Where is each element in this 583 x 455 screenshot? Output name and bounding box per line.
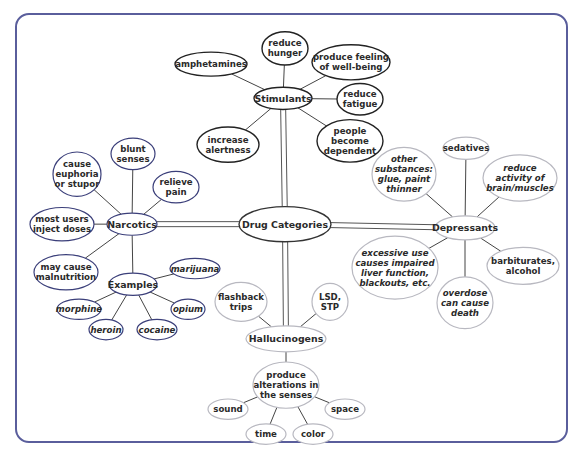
node-label: reduce [503, 163, 536, 173]
link-depressants-excessive-use [429, 238, 448, 249]
node-label: amphetamines [175, 59, 247, 69]
node-sound: sound [208, 399, 248, 419]
node-label: can cause [441, 298, 489, 308]
node-reduce-hunger: reducehunger [262, 32, 308, 65]
node-reduce-activity: reduceactivity ofbrain/muscles [483, 155, 557, 201]
node-label: produce feeling [313, 52, 389, 62]
node-flashback: flashbacktrips [215, 282, 267, 321]
node-center: Drug Categories [239, 207, 331, 242]
node-label: opium [173, 304, 203, 314]
node-label: Hallucinogens [249, 333, 324, 344]
double-link-center-stimulants [281, 109, 283, 206]
node-label: heroin [90, 325, 121, 335]
node-label: other [391, 154, 418, 164]
node-label: sedatives [443, 143, 490, 153]
node-label: space [331, 404, 359, 414]
node-label: Depressants [432, 222, 498, 233]
node-reduce-fatigue: reducefatigue [337, 84, 383, 115]
node-heroin: heroin [89, 319, 123, 339]
link-examples-heroin [112, 295, 127, 320]
node-label: trips [230, 302, 253, 312]
node-label: thinner [386, 184, 422, 194]
node-label: blunt [120, 144, 145, 154]
node-label: hunger [268, 48, 303, 58]
link-depressants-reduce-activity [477, 197, 499, 217]
link-depressants-other-substances [426, 194, 452, 217]
node-label: the senses [260, 390, 312, 400]
link-stimulants-dependent [298, 108, 327, 126]
node-label: excessive use [362, 248, 429, 258]
node-label: may cause [40, 262, 91, 272]
node-label: substances: [375, 164, 433, 174]
node-label: fatigue [343, 99, 378, 109]
node-label: inject doses [33, 224, 91, 234]
link-alterations-space [315, 397, 330, 403]
node-stimulants: Stimulants [254, 87, 312, 109]
node-space: space [325, 399, 365, 419]
node-barbiturates: barbiturates,alcohol [487, 247, 559, 284]
link-stimulants-increase-alertness [245, 108, 271, 130]
node-other-substances: othersubstances:glue, paintthinner [372, 147, 436, 201]
link-examples-cocaine [139, 295, 152, 320]
node-label: overdose [443, 288, 488, 298]
double-link-center-hallucinogens [288, 242, 289, 326]
node-label: pain [165, 187, 186, 197]
double-link-center-depressants [331, 228, 435, 230]
node-label: marijuana [171, 264, 220, 274]
node-label: barbiturates, [491, 256, 555, 266]
node-cocaine: cocaine [137, 319, 177, 339]
link-depressants-barbiturates [481, 238, 501, 251]
node-label: reduce [268, 38, 301, 48]
double-link-center-stimulants [286, 109, 288, 206]
node-label: of well-being [319, 62, 382, 72]
link-examples-opium [150, 292, 174, 303]
node-time: time [246, 424, 286, 444]
link-alterations-sound [244, 397, 258, 403]
nodes-layer: Drug CategoriesStimulantsamphetaminesred… [30, 32, 559, 445]
node-dependent: peoplebecomedependent [317, 120, 383, 163]
node-euphoria: causeeuphoriaor stupor [53, 152, 101, 196]
node-examples: Examples [108, 273, 159, 295]
node-label: alcohol [506, 266, 541, 276]
node-color: color [293, 424, 333, 444]
node-label: liver function, [361, 268, 429, 278]
link-stimulants-reduce-hunger [283, 65, 284, 87]
node-opium: opium [171, 299, 205, 319]
node-label: color [301, 429, 326, 439]
node-label: brain/muscles [486, 183, 554, 193]
node-label: alterations in [254, 380, 319, 390]
link-stimulants-well-being [300, 76, 326, 90]
node-label: time [255, 429, 277, 439]
concept-map: Drug CategoriesStimulantsamphetaminesred… [0, 0, 583, 455]
node-label: sound [213, 404, 242, 414]
node-blunt-senses: bluntsenses [111, 138, 155, 169]
node-label: people [334, 126, 367, 136]
node-label: activity of [496, 173, 546, 183]
node-label: flashback [218, 292, 264, 302]
link-alterations-color [298, 407, 308, 425]
double-link-center-hallucinogens [283, 242, 284, 326]
link-stimulants-amphetamines [232, 74, 265, 90]
node-label: death [451, 308, 479, 318]
node-label: STP [321, 302, 339, 312]
node-label: Drug Categories [242, 219, 328, 230]
node-label: blackouts, etc. [359, 278, 430, 288]
node-label: alertness [205, 145, 250, 155]
node-label: dependent [324, 146, 376, 156]
link-hallucinogens-lsd [300, 314, 316, 327]
node-lsd: LSD,STP [312, 283, 348, 320]
node-inject-doses: most usersinject doses [30, 208, 94, 241]
link-examples-morphine [95, 292, 116, 302]
node-marijuana: marijuana [170, 258, 220, 278]
node-label: cocaine [139, 325, 176, 335]
node-label: senses [116, 154, 149, 164]
node-label: morphine [56, 304, 102, 314]
link-depressants-sedatives [465, 159, 466, 215]
link-narcotics-malnutrition [85, 234, 119, 259]
node-label: Examples [108, 279, 159, 290]
node-label: or stupor [55, 179, 101, 189]
node-label: malnutrition [36, 272, 96, 282]
node-overdose: overdosecan causedeath [437, 277, 493, 329]
node-label: LSD, [319, 292, 341, 302]
node-label: Narcotics [107, 219, 157, 230]
